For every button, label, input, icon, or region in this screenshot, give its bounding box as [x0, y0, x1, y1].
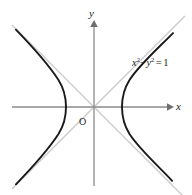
origin-label: O [79, 117, 86, 127]
equation-equals-sign: = [154, 57, 163, 68]
x-axis-arrowhead [167, 103, 174, 111]
x-axis-label: x [176, 101, 181, 112]
equation-annotation: x2−y2=1 [132, 58, 169, 69]
plot-canvas [0, 0, 192, 195]
equation-right-hand-side: 1 [163, 57, 168, 68]
asymptote-negative-slope [12, 25, 185, 195]
hyperbola-figure: y x O x2−y2=1 [0, 0, 192, 195]
y-axis-arrowhead [90, 20, 98, 27]
asymptote-positive-slope [12, 16, 185, 189]
y-axis-label: y [89, 8, 94, 19]
